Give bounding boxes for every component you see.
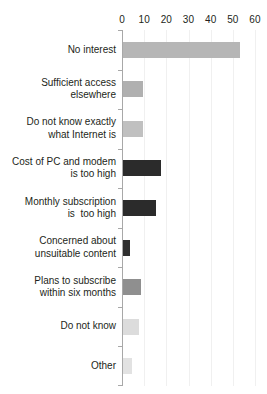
x-tick-label: 20 [161, 13, 172, 27]
bar [123, 42, 240, 58]
grid-line [189, 30, 190, 386]
bar [123, 358, 132, 374]
bar [123, 240, 130, 256]
category-label: Other [0, 360, 116, 373]
x-tick-label: 40 [205, 13, 216, 27]
x-tick-label: 0 [119, 13, 125, 27]
x-tick-label: 10 [138, 13, 149, 27]
category-label: Do not know exactly what Internet is [0, 116, 116, 141]
category-label: Cost of PC and modem is too high [0, 156, 116, 181]
y-axis-category-labels: No interestSufficient access elsewhereDo… [0, 30, 116, 386]
category-label: Monthly subscription is too high [0, 196, 116, 221]
bar [123, 160, 161, 176]
y-tick-mark [118, 267, 122, 268]
x-tick-label: 30 [183, 13, 194, 27]
category-label: Sufficient access elsewhere [0, 77, 116, 102]
y-tick-mark [118, 149, 122, 150]
category-label: Concerned about unsuitable content [0, 235, 116, 260]
category-label: Plans to subscribe within six months [0, 275, 116, 300]
bar [123, 319, 139, 335]
bar [123, 81, 143, 97]
bar [123, 279, 141, 295]
plot-area [122, 30, 255, 386]
y-tick-mark [118, 385, 122, 386]
category-label: Do not know [0, 320, 116, 333]
y-tick-mark [118, 109, 122, 110]
x-tick-label: 60 [249, 13, 260, 27]
bar [123, 121, 143, 137]
grid-line [233, 30, 234, 386]
y-tick-mark [118, 188, 122, 189]
y-tick-mark [118, 70, 122, 71]
y-tick-mark [118, 228, 122, 229]
y-tick-mark [118, 346, 122, 347]
x-axis-tick-labels: 0102030405060 [0, 13, 267, 27]
bar-chart: 0102030405060 No interestSufficient acce… [0, 0, 267, 394]
y-tick-mark [118, 30, 122, 31]
x-tick-label: 50 [227, 13, 238, 27]
grid-line [211, 30, 212, 386]
category-label: No interest [0, 44, 116, 57]
y-tick-mark [118, 307, 122, 308]
grid-line [166, 30, 167, 386]
grid-line [255, 30, 256, 386]
bar [123, 200, 156, 216]
